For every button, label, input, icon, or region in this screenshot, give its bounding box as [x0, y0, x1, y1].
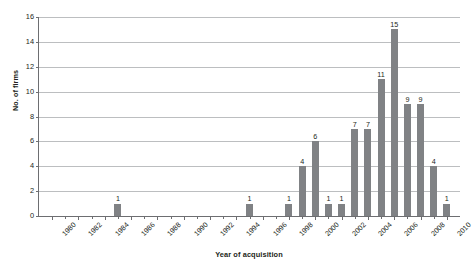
x-axis-tick-label: 1992	[219, 221, 235, 237]
y-axis-tick-label: 0	[30, 212, 34, 219]
y-axis-tick	[36, 216, 39, 217]
x-axis-tick-label: 1994	[245, 221, 261, 237]
x-axis-tick-label: 2004	[377, 221, 393, 237]
x-axis-tick	[157, 216, 158, 220]
bar: 1	[325, 204, 332, 216]
x-axis-tick-label: 1982	[87, 221, 103, 237]
bar: 6	[312, 141, 319, 216]
bar-value-label: 7	[353, 121, 357, 128]
y-axis-tick	[36, 191, 39, 192]
x-axis-tick	[342, 216, 343, 220]
x-axis-tick-label: 2000	[324, 221, 340, 237]
x-axis-tick-label: 2002	[350, 221, 366, 237]
y-axis-tick-label: 16	[26, 13, 34, 20]
bar-value-label: 1	[116, 195, 120, 202]
y-axis-tick	[36, 117, 39, 118]
bar: 1	[338, 204, 345, 216]
bar-value-label: 7	[366, 121, 370, 128]
y-axis-title: No. of firms	[11, 46, 20, 136]
y-axis-tick-label: 2	[30, 187, 34, 194]
bar: 1	[246, 204, 253, 216]
y-axis-tick-label: 6	[30, 138, 34, 145]
x-axis-tick	[434, 216, 435, 219]
x-axis-tick	[407, 216, 408, 219]
x-axis-tick	[276, 216, 277, 219]
bar-value-label: 9	[419, 96, 423, 103]
bar-value-label: 1	[340, 195, 344, 202]
x-axis-tick	[328, 216, 329, 219]
x-axis-tick	[78, 216, 79, 220]
bar: 7	[364, 129, 371, 216]
bar-value-label: 9	[405, 96, 409, 103]
x-axis-tick	[210, 216, 211, 220]
x-axis-tick	[131, 216, 132, 220]
x-axis-tick	[447, 216, 448, 220]
y-axis-tick-label: 10	[26, 88, 34, 95]
x-axis-tick	[65, 216, 66, 219]
bar: 9	[404, 104, 411, 216]
bar: 7	[351, 129, 358, 216]
bar: 9	[417, 104, 424, 216]
y-axis-tick	[36, 92, 39, 93]
x-axis-tick	[368, 216, 369, 220]
x-axis-tick	[52, 216, 53, 220]
plot-area: 0246810121416198019821984198619881990199…	[38, 17, 460, 217]
x-axis-tick-label: 1990	[192, 221, 208, 237]
x-axis-tick-label: 2008	[429, 221, 445, 237]
y-axis-tick	[36, 42, 39, 43]
x-axis-tick	[302, 216, 303, 219]
x-axis-tick	[315, 216, 316, 220]
x-axis-tick	[171, 216, 172, 219]
bar: 1	[285, 204, 292, 216]
bar: 4	[430, 166, 437, 216]
x-axis-tick	[197, 216, 198, 219]
x-axis-tick	[236, 216, 237, 220]
x-axis-tick	[355, 216, 356, 219]
bar: 1	[114, 204, 121, 216]
bar-value-label: 1	[326, 195, 330, 202]
x-axis-tick	[92, 216, 93, 219]
y-axis-tick-label: 4	[30, 163, 34, 170]
bar: 4	[299, 166, 306, 216]
x-axis-tick	[421, 216, 422, 220]
x-axis-tick-label: 1986	[140, 221, 156, 237]
x-axis-tick	[118, 216, 119, 219]
x-axis-tick	[381, 216, 382, 219]
bar-value-label: 15	[390, 21, 398, 28]
x-axis-tick	[184, 216, 185, 220]
x-axis-tick	[144, 216, 145, 219]
bar: 15	[391, 29, 398, 216]
x-axis-tick-label: 2006	[403, 221, 419, 237]
bar-value-label: 6	[313, 133, 317, 140]
bar-value-label: 1	[287, 195, 291, 202]
x-axis-tick	[263, 216, 264, 220]
x-axis-tick-label: 1984	[113, 221, 129, 237]
x-axis-tick-label: 2010	[456, 221, 472, 237]
x-axis-tick-label: 1998	[298, 221, 314, 237]
x-axis-tick	[289, 216, 290, 220]
y-axis-tick-label: 12	[26, 63, 34, 70]
bar-value-label: 1	[445, 195, 449, 202]
bar-value-label: 4	[432, 158, 436, 165]
x-axis-tick	[223, 216, 224, 219]
x-axis-tick	[105, 216, 106, 220]
y-axis-tick	[36, 67, 39, 68]
bar: 1	[443, 204, 450, 216]
gridline	[39, 17, 460, 18]
x-axis-tick	[394, 216, 395, 220]
bar: 11	[378, 79, 385, 216]
bar-value-label: 1	[248, 195, 252, 202]
x-axis-tick-label: 1988	[166, 221, 182, 237]
x-axis-tick	[250, 216, 251, 219]
bar-value-label: 4	[300, 158, 304, 165]
y-axis-tick	[36, 166, 39, 167]
bar-value-label: 11	[377, 71, 384, 78]
x-axis-title: Year of acquisition	[38, 250, 460, 259]
x-axis-tick-label: 1996	[271, 221, 287, 237]
y-axis-tick-label: 8	[30, 113, 34, 120]
y-axis-tick	[36, 141, 39, 142]
y-axis-tick-label: 14	[26, 38, 34, 45]
y-axis-tick	[36, 17, 39, 18]
x-axis-tick-label: 1980	[61, 221, 77, 237]
